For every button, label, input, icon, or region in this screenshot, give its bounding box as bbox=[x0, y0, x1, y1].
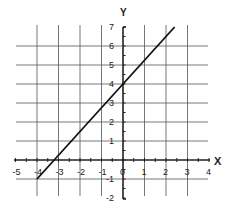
x-tick-label: 0 bbox=[120, 167, 125, 177]
y-tick-label: -2 bbox=[106, 193, 114, 203]
y-tick-label: 5 bbox=[109, 60, 114, 70]
y-tick-label: 1 bbox=[109, 136, 114, 146]
tick-marks bbox=[16, 27, 210, 198]
x-tick-label: -2 bbox=[77, 167, 85, 177]
coordinate-plane: -5-4-3-2-101234-2-11234567 X Y bbox=[0, 0, 230, 208]
x-tick-label: -5 bbox=[13, 167, 21, 177]
y-tick-label: 4 bbox=[109, 79, 114, 89]
x-tick-label: -3 bbox=[56, 167, 64, 177]
tick-labels: -5-4-3-2-101234-2-11234567 bbox=[13, 22, 212, 203]
x-tick-label: 2 bbox=[163, 167, 168, 177]
x-tick-label: 4 bbox=[206, 167, 211, 177]
y-tick-label: 6 bbox=[109, 41, 114, 51]
x-tick-label: 3 bbox=[185, 167, 190, 177]
y-tick-label: 7 bbox=[109, 22, 114, 32]
x-axis-label: X bbox=[214, 155, 222, 167]
x-tick-label: 1 bbox=[142, 167, 147, 177]
y-tick-label: -1 bbox=[106, 174, 114, 184]
y-tick-label: 2 bbox=[109, 117, 114, 127]
y-axis-label: Y bbox=[120, 7, 127, 18]
